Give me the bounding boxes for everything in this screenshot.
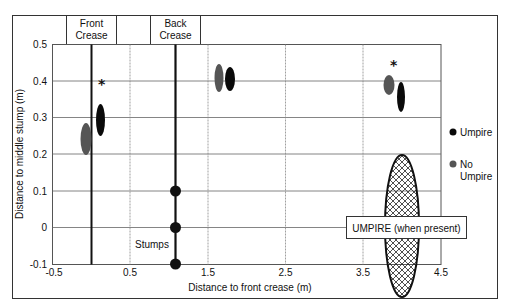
x-tick: -0.5 <box>45 267 63 278</box>
umpire-label: UMPIRE (when present) <box>352 223 460 234</box>
significance-asterisk: * <box>390 57 398 73</box>
back-crease-label-line2: Crease <box>159 30 192 41</box>
stump-marker <box>170 259 181 270</box>
legend-label: No <box>460 159 473 170</box>
stumps-label: Stumps <box>135 239 169 250</box>
y-axis-title: Distance to middle stump (m) <box>14 89 25 219</box>
back-crease-label-box: Back Crease <box>151 16 201 45</box>
front-crease-label-line1: Front <box>80 18 104 29</box>
back-crease-label-line1: Back <box>164 18 187 29</box>
data-point <box>397 82 405 112</box>
plot-area: Stumps UMPIRE (when present) * * <box>53 45 467 298</box>
x-tick: 1.5 <box>201 267 215 278</box>
x-tick: 4.5 <box>434 267 448 278</box>
data-point <box>384 75 395 95</box>
y-tick: 0 <box>41 222 47 233</box>
front-crease-label-line2: Crease <box>75 30 108 41</box>
y-tick: 0.4 <box>33 76 47 87</box>
significance-asterisk: * <box>98 76 106 92</box>
data-point <box>96 104 105 136</box>
y-tick: 0.3 <box>33 112 47 123</box>
x-tick: 3.5 <box>356 267 370 278</box>
data-point <box>215 64 224 92</box>
chart: Front Crease Back Crease <box>0 0 511 308</box>
front-crease-label-box: Front Crease <box>67 16 117 45</box>
legend-marker-icon <box>450 129 457 136</box>
legend-label: Umpire <box>460 127 493 138</box>
x-tick: 2.5 <box>279 267 293 278</box>
data-point <box>225 67 235 91</box>
x-tick: 0.5 <box>123 267 137 278</box>
data-point <box>81 123 92 155</box>
legend-label: Umpire <box>460 171 493 182</box>
stump-marker <box>170 186 181 197</box>
legend-marker-icon <box>450 161 457 168</box>
y-tick: 0.2 <box>33 149 47 160</box>
stump-marker <box>170 222 181 233</box>
umpire-label-box: UMPIRE (when present) <box>347 217 467 239</box>
y-tick: 0.5 <box>33 39 47 50</box>
y-tick: 0.1 <box>33 186 47 197</box>
x-axis-title: Distance to front crease (m) <box>188 282 311 293</box>
